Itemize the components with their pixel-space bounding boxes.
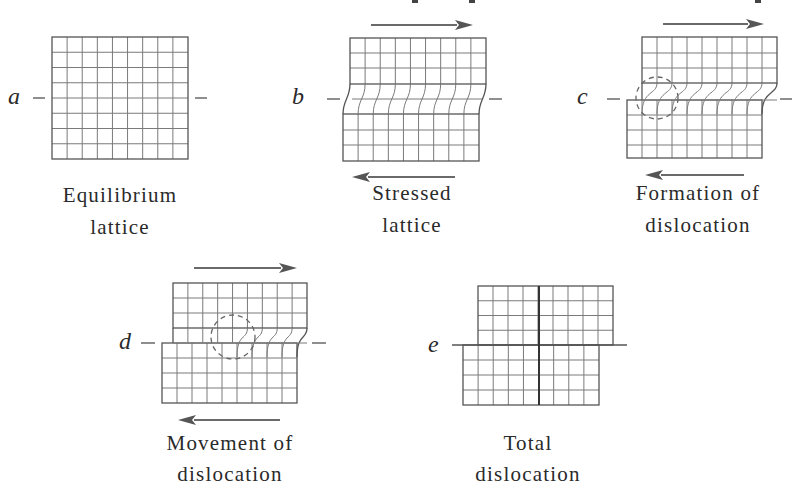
caption-line-2: dislocation [177,462,282,486]
arrow-head [645,170,663,180]
bent-lattice-column [732,83,747,114]
bent-lattice-column [657,83,672,114]
bent-lattice-column [762,83,777,114]
panel-a-equilibrium-lattice: aEquilibriumlattice [8,37,207,239]
lower-lattice-block [343,114,479,161]
lattice-outline [343,114,479,161]
shear-arrow-left-icon [178,415,280,425]
bent-lattice-column [687,83,702,114]
upper-lattice-block [642,37,777,83]
panel-d-movement-of-dislocation: dMovement ofdislocation [119,263,326,486]
arrow-head [178,415,196,425]
equilibrium-lattice-grid [52,37,188,159]
lattice-outline [627,100,762,158]
arrow-head [746,19,764,29]
caption-line-1: Total [504,431,553,455]
caption-line-1: Movement of [167,431,294,455]
shear-arrow-left-icon [645,170,744,180]
shear-arrow-right-icon [371,20,473,30]
panel-c-formation-of-dislocation: cFormation ofdislocation [577,19,792,237]
cropped-descender [755,0,761,3]
lattice-outline [642,37,777,83]
panel-label-d: d [119,328,132,354]
bent-lattice-column [702,83,717,114]
cropped-text-above [412,0,761,3]
caption-line-2: dislocation [475,462,580,486]
panel-label-c: c [577,83,588,109]
caption-line-2: dislocation [645,213,750,237]
panel-label-b: b [292,83,304,109]
panel-label-a: a [8,83,20,109]
bent-lattice-column [747,83,762,114]
panel-label-e: e [428,331,439,357]
bent-lattice-column [642,83,657,114]
lattice-outline [173,283,307,328]
distorted-slip-band [642,83,777,114]
sheared-lattice-band [343,84,486,114]
upper-lattice-block [173,283,307,328]
lattice-outline [350,38,486,84]
cropped-descender [412,0,418,3]
panel-e-total-dislocation: eTotaldislocation [428,286,627,486]
caption-line-2: lattice [382,213,442,237]
shear-arrow-right-icon [194,263,297,273]
panel-b-stressed-lattice: bStressedlattice [292,20,502,237]
arrow-head [279,263,297,273]
arrow-head [352,172,370,182]
bent-lattice-column [343,84,350,114]
dislocation-diagram: aEquilibriumlattice bStressedlattice cFo… [0,0,800,488]
caption-line-1: Stressed [372,181,452,205]
bent-lattice-column [717,83,732,114]
distorted-slip-band [173,328,307,357]
lower-lattice-block [463,345,599,405]
cropped-descender [469,0,475,3]
arrow-head [455,20,473,30]
upper-lattice-block [478,286,613,345]
lower-lattice-block [627,100,762,158]
caption-line-1: Formation of [636,181,761,205]
caption-line-1: Equilibrium [63,183,178,207]
upper-lattice-block [350,38,486,84]
caption-line-2: lattice [90,215,150,239]
shear-arrow-right-icon [663,19,764,29]
lower-lattice-block [162,343,297,403]
